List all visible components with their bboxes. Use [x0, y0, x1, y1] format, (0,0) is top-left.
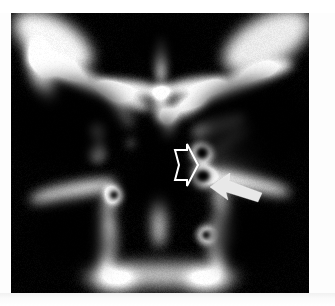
ct-scan-image [11, 13, 309, 293]
ct-image-frame [11, 13, 309, 293]
figure-root [0, 0, 335, 306]
bottom-margin [0, 293, 335, 306]
top-margin [0, 0, 335, 13]
